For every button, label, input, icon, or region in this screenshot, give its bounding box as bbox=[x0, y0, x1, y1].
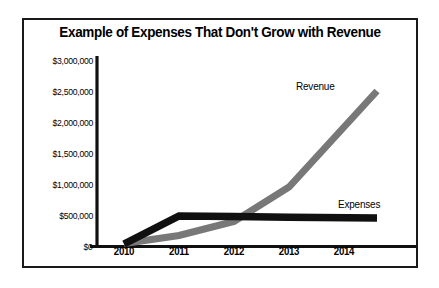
y-tick-label: $1,000,000 bbox=[53, 180, 93, 190]
y-tick-label: $0 bbox=[84, 242, 93, 252]
chart-figure: Example of Expenses That Don't Grow with… bbox=[22, 18, 418, 268]
x-tick-label: 2013 bbox=[279, 246, 299, 257]
series-label-expenses: Expenses bbox=[338, 198, 380, 210]
y-tick-label: $2,500,000 bbox=[53, 87, 93, 97]
x-tick-label: 2012 bbox=[224, 246, 244, 257]
x-tick-label: 2010 bbox=[114, 246, 134, 257]
plot-area: $3,000,000 $2,500,000 $2,000,000 $1,500,… bbox=[24, 20, 420, 270]
x-tick-label: 2011 bbox=[169, 246, 189, 257]
y-axis-tick-labels: $3,000,000 $2,500,000 $2,000,000 $1,500,… bbox=[24, 20, 93, 270]
series-label-revenue: Revenue bbox=[296, 80, 335, 92]
y-tick-label: $500,000 bbox=[59, 211, 93, 221]
x-tick-label: 2014 bbox=[334, 246, 354, 257]
y-tick-label: $3,000,000 bbox=[53, 56, 93, 66]
y-tick-label: $2,000,000 bbox=[53, 118, 93, 128]
y-tick-label: $1,500,000 bbox=[53, 149, 93, 159]
